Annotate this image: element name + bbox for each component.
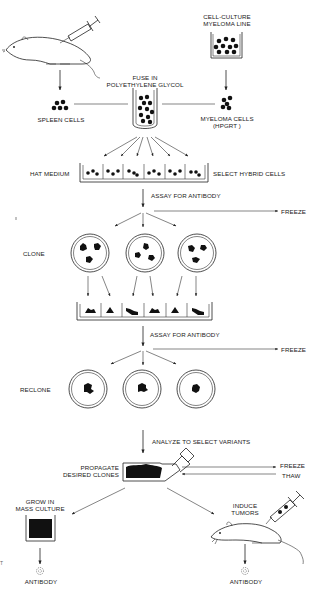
mouse-icon <box>211 522 303 564</box>
spleen-cells-icon <box>52 100 69 111</box>
myeloma-cells-icon <box>221 96 233 111</box>
induce-tumors-label: INDUCE TUMORS <box>231 502 258 516</box>
grow-mass-culture-label: GROW IN MASS CULTURE <box>15 498 64 512</box>
spleen-cells-label: SPLEEN CELLS <box>38 116 85 123</box>
fuse-label: FUSE IN POLYETHYLENE GLYCOL <box>107 74 184 88</box>
thaw-label: THAW <box>282 472 300 479</box>
mouse-icon <box>2 37 100 78</box>
culture-flask-icon <box>123 448 194 481</box>
test-tube-icon <box>133 88 157 129</box>
syringe-icon <box>266 491 304 524</box>
antibody-icon <box>37 568 44 575</box>
myeloma-cells-label: MYELOMA CELLS (HPGRT ) <box>200 115 253 129</box>
stray-mark: t <box>0 560 3 567</box>
petri-dish-icon <box>126 234 164 272</box>
beaker-icon <box>26 515 55 541</box>
petri-dish-icon <box>123 370 161 408</box>
antibody-label-left: ANTIBODY <box>25 578 57 585</box>
antibody-icon <box>242 568 249 575</box>
propagate-label: PROPAGATE DESIRED CLONES <box>63 464 119 478</box>
assay-label-1: ASSAY FOR ANTIBODY <box>151 192 221 199</box>
freeze-label-3: FREEZE <box>280 462 305 469</box>
culture-well-tray-icon <box>80 163 208 182</box>
freeze-label-2: FREEZE <box>281 346 306 353</box>
reclone-arrows <box>111 351 176 365</box>
clone-arrows <box>115 213 176 227</box>
antibody-label-right: ANTIBODY <box>230 578 262 585</box>
subculture-arrows <box>88 276 196 296</box>
beaker-icon <box>211 32 242 58</box>
distribution-arrows <box>104 137 188 156</box>
freeze-label-1: FREEZE <box>281 208 306 215</box>
cell-culture-label: CELL-CULTURE MYELOMA LINE <box>203 13 251 27</box>
hat-medium-label: HAT MEDIUM <box>30 170 70 177</box>
select-hybrid-label: SELECT HYBRID CELLS <box>213 170 285 177</box>
reclone-label: RECLONE <box>20 386 51 393</box>
assay-label-2: ASSAY FOR ANTIBODY <box>150 331 220 338</box>
culture-well-tray-icon <box>77 302 212 320</box>
petri-dish-icon <box>71 234 109 272</box>
analyze-label: ANALYZE TO SELECT VARIANTS <box>152 438 250 445</box>
petri-dish-icon <box>178 234 216 272</box>
petri-dish-icon <box>69 370 107 408</box>
syringe-icon <box>60 16 100 43</box>
petri-dish-icon <box>177 370 215 408</box>
clone-label: CLONE <box>23 250 45 257</box>
